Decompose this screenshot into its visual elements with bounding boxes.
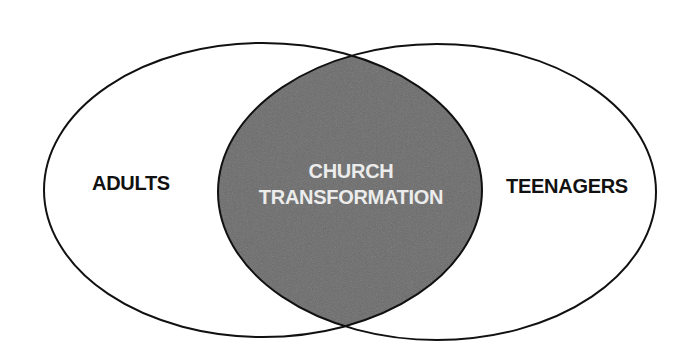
teenagers-label: TEENAGERS — [506, 175, 628, 197]
venn-diagram: ADULTS TEENAGERS CHURCH TRANSFORMATION — [0, 0, 686, 355]
adults-label: ADULTS — [92, 172, 170, 194]
intersection-label-line1: CHURCH — [309, 160, 394, 182]
intersection-label-line2: TRANSFORMATION — [259, 186, 443, 208]
